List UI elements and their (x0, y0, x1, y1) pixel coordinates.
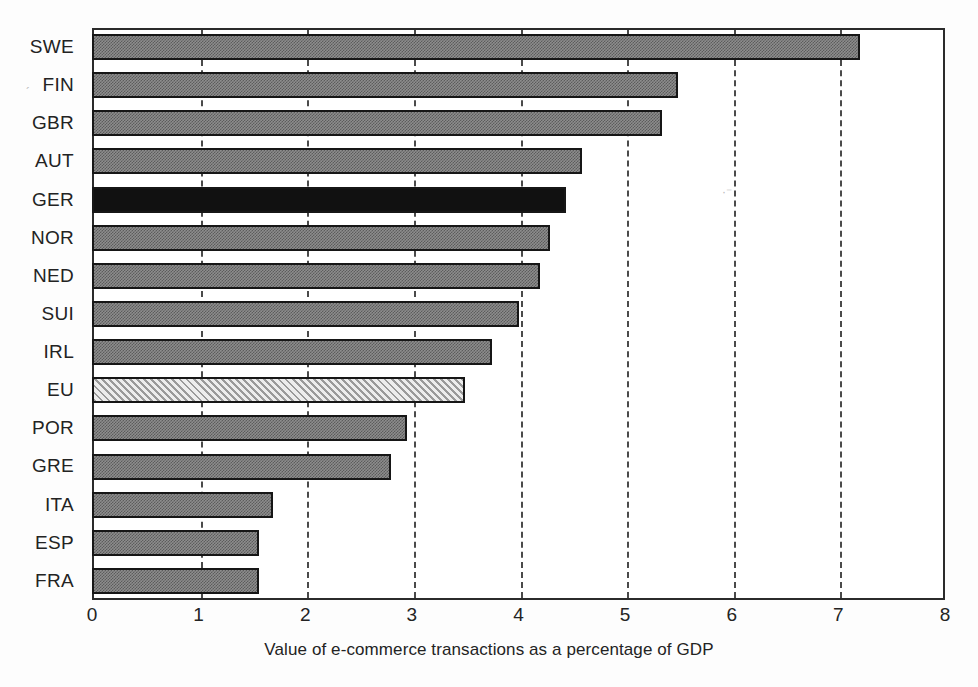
bar-aut[interactable] (92, 148, 582, 174)
y-axis-label-por: POR (0, 409, 84, 447)
bar-row (92, 295, 945, 333)
x-tick-6: 6 (712, 604, 752, 626)
bar-row (92, 486, 945, 524)
y-axis-label-ned: NED (0, 257, 84, 295)
bar-row (92, 409, 945, 447)
y-axis-label-aut: AUT (0, 142, 84, 180)
bar-esp[interactable] (92, 530, 259, 556)
bar-row (92, 219, 945, 257)
bar-row (92, 66, 945, 104)
bar-row (92, 181, 945, 219)
y-axis-label-sui: SUI (0, 295, 84, 333)
bar-gbr[interactable] (92, 110, 662, 136)
x-tick-1: 1 (179, 604, 219, 626)
x-axis-tick-labels: 012345678 (92, 604, 945, 638)
chart-figure: SWEFINGBRAUTGERNORNEDSUIIRLEUPORGREITAES… (0, 0, 978, 687)
bar-row (92, 562, 945, 600)
bar-row (92, 104, 945, 142)
bars-layer (92, 28, 945, 600)
bar-gre[interactable] (92, 454, 391, 480)
y-axis-label-esp: ESP (0, 524, 84, 562)
bar-eu[interactable] (92, 377, 465, 403)
bar-fin[interactable] (92, 72, 678, 98)
bar-row (92, 142, 945, 180)
bar-nor[interactable] (92, 225, 550, 251)
y-axis-label-ger: GER (0, 181, 84, 219)
bar-row (92, 447, 945, 485)
y-axis-label-nor: NOR (0, 219, 84, 257)
bar-row (92, 257, 945, 295)
x-tick-8: 8 (925, 604, 965, 626)
y-axis-label-fin: FIN (0, 66, 84, 104)
y-axis-label-eu: EU (0, 371, 84, 409)
y-axis-label-swe: SWE (0, 28, 84, 66)
x-tick-0: 0 (72, 604, 112, 626)
bar-row (92, 28, 945, 66)
bar-ita[interactable] (92, 492, 273, 518)
bar-swe[interactable] (92, 34, 860, 60)
y-axis-label-gbr: GBR (0, 104, 84, 142)
y-axis-label-irl: IRL (0, 333, 84, 371)
bar-row (92, 524, 945, 562)
x-tick-7: 7 (818, 604, 858, 626)
y-axis-category-labels: SWEFINGBRAUTGERNORNEDSUIIRLEUPORGREITAES… (0, 28, 84, 600)
x-tick-4: 4 (499, 604, 539, 626)
bar-ned[interactable] (92, 263, 540, 289)
x-tick-5: 5 (605, 604, 645, 626)
x-tick-2: 2 (285, 604, 325, 626)
bar-sui[interactable] (92, 301, 519, 327)
bar-ger[interactable] (92, 187, 566, 213)
bar-por[interactable] (92, 415, 407, 441)
y-axis-label-fra: FRA (0, 562, 84, 600)
x-axis-title: Value of e-commerce transactions as a pe… (0, 640, 978, 660)
x-tick-3: 3 (392, 604, 432, 626)
bar-row (92, 333, 945, 371)
y-axis-label-ita: ITA (0, 486, 84, 524)
bar-row (92, 371, 945, 409)
bar-irl[interactable] (92, 339, 492, 365)
bar-fra[interactable] (92, 568, 259, 594)
y-axis-label-gre: GRE (0, 447, 84, 485)
